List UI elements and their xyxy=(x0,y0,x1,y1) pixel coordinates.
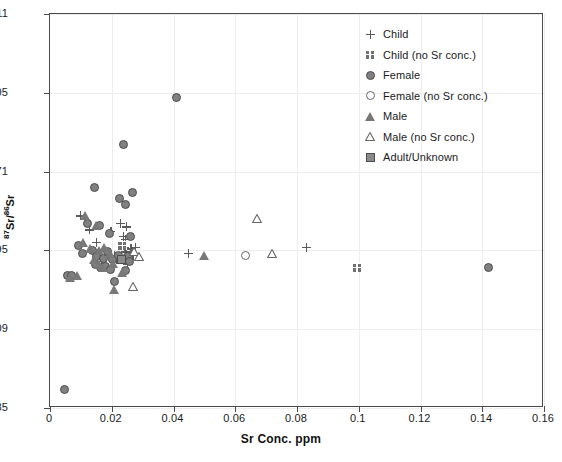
data-point-filled-triangle xyxy=(80,211,90,220)
gridline-horizontal xyxy=(50,14,542,15)
x-axis-tick xyxy=(359,406,360,412)
x-axis-tick-label: 0.1 xyxy=(350,412,366,424)
y-axis-tick-label: 0.7085 xyxy=(0,401,8,413)
data-point-filled-circle xyxy=(172,93,181,102)
gridline-vertical xyxy=(174,14,175,406)
data-point-filled-triangle xyxy=(98,263,108,272)
x-axis-tick xyxy=(112,406,113,412)
data-point-plus xyxy=(122,222,131,231)
data-point-filled-circle xyxy=(60,385,69,394)
x-axis-tick xyxy=(50,406,51,412)
legend-item-male[interactable]: Male xyxy=(357,106,527,127)
y-axis-title-base: Sr/ xyxy=(4,215,16,230)
legend-label: Female xyxy=(383,69,420,81)
data-point-plus xyxy=(184,249,193,258)
data-point-filled-circle xyxy=(105,229,114,238)
data-point-filled-triangle xyxy=(199,251,209,260)
data-point-filled-triangle xyxy=(85,244,95,253)
y-axis-tick xyxy=(44,14,50,15)
x-axis-title: Sr Conc. ppm xyxy=(0,432,562,446)
gridline-horizontal xyxy=(50,408,542,409)
data-point-open-triangle xyxy=(267,249,277,258)
data-point-open-triangle xyxy=(134,252,144,261)
y-axis-tick-label: 0.709 xyxy=(0,322,8,334)
y-axis-tick xyxy=(44,93,50,94)
gridline-vertical xyxy=(544,14,545,406)
legend-label: Male xyxy=(383,110,407,122)
legend-label: Adult/Unknown xyxy=(383,151,458,163)
data-point-filled-circle xyxy=(119,140,128,149)
legend-label: Male (no Sr conc.) xyxy=(383,131,475,143)
x-axis-tick xyxy=(421,406,422,412)
y-axis-tick xyxy=(44,408,50,409)
data-point-open-triangle xyxy=(128,282,138,291)
x-axis-tick-label: 0.08 xyxy=(285,412,307,424)
legend-item-female[interactable]: Female xyxy=(357,65,527,86)
plus-icon xyxy=(357,24,383,44)
gridline-horizontal xyxy=(50,172,542,173)
y-axis-tick xyxy=(44,329,50,330)
filled-triangle-icon-glyph xyxy=(365,112,375,121)
x-axis-tick xyxy=(174,406,175,412)
open-circle-icon xyxy=(357,86,383,106)
open-circle-icon-glyph xyxy=(366,91,375,100)
legend-item-adult-unknown[interactable]: Adult/Unknown xyxy=(357,147,527,168)
data-point-plus xyxy=(302,243,311,252)
x-axis-tick xyxy=(297,406,298,412)
data-point-filled-square xyxy=(117,255,126,264)
filled-circle-icon xyxy=(357,65,383,85)
legend-item-female-no-sr-conc[interactable]: Female (no Sr conc.) xyxy=(357,86,527,107)
y-axis-tick-label: 0.711 xyxy=(0,7,8,19)
x-axis-tick-label: 0.16 xyxy=(532,412,554,424)
x-axis-tick-label: 0.14 xyxy=(470,412,492,424)
gridline-vertical xyxy=(235,14,236,406)
filled-circle-icon-glyph xyxy=(366,71,375,80)
x-axis-tick-label: 0 xyxy=(46,412,52,424)
x-axis-tick xyxy=(482,406,483,412)
data-point-filled-triangle xyxy=(72,271,82,280)
y-axis-tick xyxy=(44,250,50,251)
legend: ChildChild (no Sr conc.)FemaleFemale (no… xyxy=(357,24,527,168)
data-point-filled-triangle xyxy=(117,268,127,277)
data-point-filled-circle xyxy=(128,188,137,197)
data-point-filled-circle xyxy=(90,183,99,192)
data-point-filled-triangle xyxy=(91,221,101,230)
filled-square-icon xyxy=(357,147,383,167)
x-axis-tick-label: 0.06 xyxy=(223,412,245,424)
checkered-square-icon-glyph xyxy=(366,50,375,59)
x-axis-tick xyxy=(544,406,545,412)
open-triangle-icon-glyph xyxy=(365,132,375,141)
data-point-filled-circle xyxy=(121,200,130,209)
data-point-open-circle xyxy=(241,251,250,260)
y-axis-tick xyxy=(44,172,50,173)
x-axis-tick-label: 0.12 xyxy=(409,412,431,424)
data-point-filled-triangle xyxy=(109,285,119,294)
checkered-square-icon xyxy=(357,45,383,65)
legend-item-child[interactable]: Child xyxy=(357,24,527,45)
y-axis-tick-label: 0.7095 xyxy=(0,243,8,255)
data-point-filled-triangle xyxy=(105,249,115,258)
x-axis-tick xyxy=(235,406,236,412)
y-axis-title-sup-86: 86 xyxy=(2,206,11,215)
gridline-horizontal xyxy=(50,329,542,330)
legend-label: Female (no Sr conc.) xyxy=(383,90,488,102)
filled-square-icon-glyph xyxy=(366,153,375,162)
legend-item-male-no-sr-conc[interactable]: Male (no Sr conc.) xyxy=(357,127,527,148)
data-point-filled-circle xyxy=(125,257,134,266)
plus-icon-glyph xyxy=(366,30,375,39)
x-axis-tick-label: 0.04 xyxy=(162,412,184,424)
legend-label: Child (no Sr conc.) xyxy=(383,49,476,61)
y-axis-title-base2: Sr xyxy=(4,195,16,207)
legend-item-child-no-sr-conc[interactable]: Child (no Sr conc.) xyxy=(357,45,527,66)
gridline-vertical xyxy=(112,14,113,406)
y-axis-tick-label: 0.7105 xyxy=(0,86,8,98)
y-axis-title-sup-87: 87 xyxy=(2,230,11,239)
legend-label: Child xyxy=(383,28,409,40)
data-point-checkered-square xyxy=(353,263,362,272)
data-point-filled-circle xyxy=(126,232,135,241)
scatter-chart: 87Sr/86Sr 0.70850.7090.70950.710.71050.7… xyxy=(0,0,562,462)
data-point-checkered-square xyxy=(118,241,127,250)
filled-triangle-icon xyxy=(357,106,383,126)
gridline-vertical xyxy=(297,14,298,406)
x-axis-tick-label: 0.02 xyxy=(100,412,122,424)
